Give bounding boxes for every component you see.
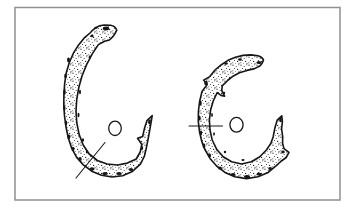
left-artifact-hole-marker xyxy=(109,121,122,135)
right-artifact-hole-marker xyxy=(230,117,243,132)
figure-canvas xyxy=(0,0,355,212)
